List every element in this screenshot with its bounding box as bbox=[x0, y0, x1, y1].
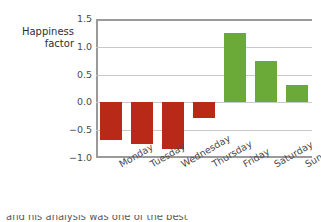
caption-sliver: and his analysis was one of the best bbox=[0, 215, 321, 222]
x-tick-label: Monday bbox=[117, 160, 123, 170]
bar bbox=[131, 102, 153, 144]
plot-area bbox=[96, 19, 312, 158]
bar-chart-figure: Happiness factor 1.51.00.50.0−0.5−1.0 Mo… bbox=[0, 0, 321, 222]
x-tick-label: Sunday bbox=[303, 160, 309, 170]
x-tick-label: Tuesday bbox=[148, 160, 154, 170]
bar bbox=[100, 102, 122, 140]
bar bbox=[255, 61, 277, 102]
gridline bbox=[96, 47, 312, 48]
y-tick-label: −1.0 bbox=[62, 153, 92, 163]
y-axis-tick-labels: 1.51.00.50.0−0.5−1.0 bbox=[58, 0, 92, 222]
gridline bbox=[96, 75, 312, 76]
x-tick-label: Thursday bbox=[210, 160, 216, 170]
x-tick-label: Saturday bbox=[272, 160, 278, 170]
y-tick-label: −0.5 bbox=[62, 125, 92, 135]
y-tick-label: 0.5 bbox=[62, 70, 92, 80]
x-axis-tick-labels: MondayTuesdayWednesdayThursdayFridaySatu… bbox=[96, 160, 321, 222]
bar bbox=[193, 102, 215, 118]
axis-line-left bbox=[96, 19, 98, 158]
x-tick-label: Friday bbox=[241, 160, 247, 170]
y-tick-label: 1.5 bbox=[62, 14, 92, 24]
caption-text: and his analysis was one of the best bbox=[6, 215, 188, 222]
gridline bbox=[96, 130, 312, 131]
axis-line-top bbox=[96, 19, 312, 21]
bar bbox=[224, 33, 246, 103]
y-tick-label: 1.0 bbox=[62, 42, 92, 52]
x-tick-label: Wednesday bbox=[179, 160, 185, 170]
bar bbox=[286, 85, 308, 102]
y-tick-label: 0.0 bbox=[62, 97, 92, 107]
